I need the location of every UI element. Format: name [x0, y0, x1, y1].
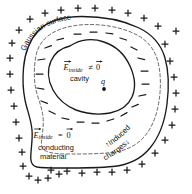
cavity-relation: ≠ — [89, 63, 94, 72]
induced-charges-label: ↑Induced charges↓ — [102, 123, 133, 162]
cavity-E-symbol: Einside — [63, 63, 83, 73]
point-charge-dot — [102, 87, 106, 91]
gaussian-surface-label: Gaussian surface — [19, 13, 72, 52]
cavity-label: cavity — [70, 74, 89, 83]
figure-canvas: Gaussian surface ↑Induced charges↓ Einsi… — [0, 0, 192, 194]
induced-negative-charges — [36, 32, 149, 123]
cavity-field-label: Einside ≠ 0 cavity q — [63, 60, 106, 86]
conductor-field-label: Einside = 0 conducting material — [33, 128, 74, 161]
conducting-label-line1: conducting — [38, 143, 74, 152]
cavity-boundary — [49, 40, 135, 114]
conductor-relation: = — [58, 131, 63, 140]
cavity-field-value: 0 — [96, 63, 100, 72]
conductor-field-value: 0 — [67, 131, 71, 140]
conducting-label-line2: material — [40, 152, 67, 161]
electrostatics-figure: Gaussian surface ↑Induced charges↓ Einsi… — [0, 0, 192, 194]
point-charge-label: q — [101, 77, 105, 86]
